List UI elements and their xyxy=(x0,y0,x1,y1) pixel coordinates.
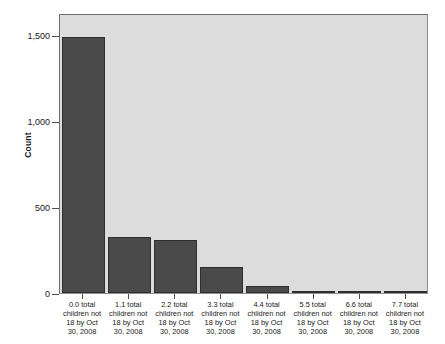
x-axis-tick-mark xyxy=(313,294,314,299)
y-axis: 05001,0001,500 xyxy=(0,0,59,344)
y-axis-tick-label: 0 xyxy=(45,289,50,300)
x-axis-category-label-line: 6.6 total xyxy=(336,300,382,309)
x-axis-category-label-line: 18 by Oct xyxy=(382,318,428,327)
bars-layer xyxy=(60,15,427,293)
bar xyxy=(338,291,381,293)
x-axis-category-label-line: 18 by Oct xyxy=(290,318,336,327)
bar xyxy=(292,291,335,293)
x-axis-category-label-line: 30, 2008 xyxy=(244,327,290,336)
x-axis-category-label-line: 0.0 total xyxy=(59,300,105,309)
x-axis-category-label-line: 30, 2008 xyxy=(336,327,382,336)
bar-chart: Count 05001,0001,500 0.0 totalchildren n… xyxy=(0,0,445,344)
y-axis-tick-label: 1,500 xyxy=(27,31,50,42)
x-axis-category-label-line: children not xyxy=(382,309,428,318)
x-axis-category-label-line: 30, 2008 xyxy=(105,327,151,336)
y-axis-tick-label: 500 xyxy=(35,203,50,214)
bar xyxy=(154,240,197,293)
x-axis-category-label-line: 30, 2008 xyxy=(151,327,197,336)
x-axis-category-label-line: 1.1 total xyxy=(105,300,151,309)
x-axis-category-label: 5.5 totalchildren not18 by Oct30, 2008 xyxy=(290,300,336,336)
x-axis-category-label-line: children not xyxy=(105,309,151,318)
x-axis-category-label-line: children not xyxy=(59,309,105,318)
x-axis-category-label: 4.4 totalchildren not18 by Oct30, 2008 xyxy=(244,300,290,336)
x-axis-category-label-line: 30, 2008 xyxy=(382,327,428,336)
x-axis-tick-mark xyxy=(82,294,83,299)
x-axis-category-label-line: 18 by Oct xyxy=(151,318,197,327)
plot-area xyxy=(59,14,428,294)
x-axis-category-label: 2.2 totalchildren not18 by Oct30, 2008 xyxy=(151,300,197,336)
x-axis-category-label-line: 7.7 total xyxy=(382,300,428,309)
x-axis-category-label-line: 18 by Oct xyxy=(244,318,290,327)
y-axis-tick-mark xyxy=(52,122,59,123)
x-axis-category-label: 7.7 totalchildren not18 by Oct30, 2008 xyxy=(382,300,428,336)
x-axis-category-label-line: 30, 2008 xyxy=(59,327,105,336)
x-axis-tick-mark xyxy=(174,294,175,299)
x-axis-category-label: 1.1 totalchildren not18 by Oct30, 2008 xyxy=(105,300,151,336)
x-axis-tick-mark xyxy=(359,294,360,299)
bar xyxy=(62,37,105,293)
x-axis-tick-mark xyxy=(128,294,129,299)
x-axis-category-label-line: 18 by Oct xyxy=(105,318,151,327)
x-axis-category-label-line: children not xyxy=(197,309,243,318)
bar xyxy=(246,286,289,293)
bar xyxy=(384,291,427,293)
x-axis-category-label: 0.0 totalchildren not18 by Oct30, 2008 xyxy=(59,300,105,336)
x-axis-category-label-line: children not xyxy=(290,309,336,318)
x-axis-category-label-line: 18 by Oct xyxy=(336,318,382,327)
y-axis-tick-label: 1,000 xyxy=(27,117,50,128)
x-axis-category-label-line: 18 by Oct xyxy=(197,318,243,327)
x-axis-category-label-line: children not xyxy=(336,309,382,318)
x-axis-category-label-line: 2.2 total xyxy=(151,300,197,309)
x-axis-category-label-line: 4.4 total xyxy=(244,300,290,309)
bar xyxy=(200,267,243,293)
x-axis-category-label-line: 5.5 total xyxy=(290,300,336,309)
bar xyxy=(108,237,151,293)
x-axis-category-label-line: 30, 2008 xyxy=(290,327,336,336)
x-axis-category-label-line: children not xyxy=(151,309,197,318)
x-axis: 0.0 totalchildren not18 by Oct30, 20081.… xyxy=(59,294,428,344)
x-axis-tick-mark xyxy=(220,294,221,299)
x-axis-category-label-line: children not xyxy=(244,309,290,318)
x-axis-category-label-line: 18 by Oct xyxy=(59,318,105,327)
y-axis-tick-mark xyxy=(52,36,59,37)
x-axis-tick-mark xyxy=(405,294,406,299)
y-axis-tick-mark xyxy=(52,208,59,209)
x-axis-category-label: 3.3 totalchildren not18 by Oct30, 2008 xyxy=(197,300,243,336)
x-axis-category-label-line: 30, 2008 xyxy=(197,327,243,336)
x-axis-tick-mark xyxy=(267,294,268,299)
x-axis-category-label-line: 3.3 total xyxy=(197,300,243,309)
y-axis-tick-mark xyxy=(52,294,59,295)
x-axis-category-label: 6.6 totalchildren not18 by Oct30, 2008 xyxy=(336,300,382,336)
